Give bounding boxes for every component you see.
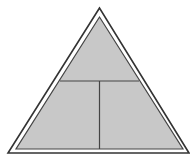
triangle-diagram bbox=[0, 0, 190, 159]
